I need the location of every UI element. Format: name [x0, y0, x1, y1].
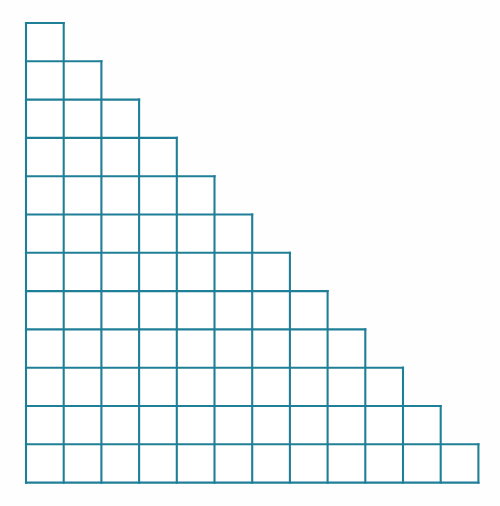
grid-cell — [328, 368, 366, 406]
grid-cell — [64, 100, 102, 138]
grid-cell — [290, 368, 328, 406]
grid-cell — [26, 406, 64, 444]
figure-canvas — [0, 0, 500, 506]
grid-cell — [403, 406, 441, 444]
grid-cell — [101, 291, 139, 329]
grid-cell — [139, 176, 177, 214]
grid-cell — [139, 329, 177, 367]
grid-cell — [365, 368, 403, 406]
grid-cell — [290, 329, 328, 367]
grid-cell — [101, 176, 139, 214]
grid-cell — [64, 215, 102, 253]
grid-cell — [26, 100, 64, 138]
grid-cell — [139, 138, 177, 176]
grid-cell — [139, 215, 177, 253]
staircase-diagram — [0, 0, 500, 506]
grid-cell — [139, 253, 177, 291]
grid-cell — [252, 444, 290, 482]
grid-cell — [64, 329, 102, 367]
grid-cell — [26, 176, 64, 214]
grid-cell — [64, 368, 102, 406]
grid-cell — [177, 176, 215, 214]
grid-cell — [177, 406, 215, 444]
grid-cell — [26, 444, 64, 482]
grid-cell — [328, 329, 366, 367]
grid-cell — [328, 406, 366, 444]
grid-cell — [26, 291, 64, 329]
grid-cell — [26, 61, 64, 99]
grid-cell — [403, 444, 441, 482]
grid-cell — [64, 61, 102, 99]
grid-cell — [101, 253, 139, 291]
grid-cell — [26, 23, 64, 61]
grid-cell — [215, 253, 253, 291]
grid-cell — [177, 368, 215, 406]
grid-cell — [177, 215, 215, 253]
grid-cell — [139, 406, 177, 444]
grid-cell — [365, 444, 403, 482]
grid-cell — [26, 215, 64, 253]
grid-cell — [26, 329, 64, 367]
grid-cell — [215, 368, 253, 406]
grid-cell — [215, 291, 253, 329]
grid-cell — [177, 444, 215, 482]
grid-cell — [177, 291, 215, 329]
grid-cell — [215, 444, 253, 482]
grid-cell — [139, 368, 177, 406]
grid-cell — [101, 100, 139, 138]
grid-cell — [290, 291, 328, 329]
grid-cell — [64, 253, 102, 291]
grid-cell — [101, 406, 139, 444]
grid-cell — [328, 444, 366, 482]
grid-cell — [252, 253, 290, 291]
grid-cell — [64, 444, 102, 482]
grid-cell — [64, 176, 102, 214]
grid-cell — [215, 329, 253, 367]
grid-cell — [101, 444, 139, 482]
grid-cell — [64, 138, 102, 176]
grid-cell — [139, 444, 177, 482]
grid-cell — [101, 329, 139, 367]
grid-cell — [290, 406, 328, 444]
grid-cell — [252, 368, 290, 406]
grid-cell — [101, 368, 139, 406]
grid-cell — [252, 329, 290, 367]
grid-cell — [441, 444, 479, 482]
grid-cell — [252, 406, 290, 444]
grid-cell — [26, 138, 64, 176]
grid-cell — [64, 406, 102, 444]
grid-cell — [101, 215, 139, 253]
grid-cell — [215, 215, 253, 253]
grid-cell — [26, 368, 64, 406]
grid-cell — [64, 291, 102, 329]
grid-cell — [215, 406, 253, 444]
grid-cell — [290, 444, 328, 482]
grid-cell — [177, 329, 215, 367]
grid-cell — [177, 253, 215, 291]
grid-cell — [139, 291, 177, 329]
grid-cell — [252, 291, 290, 329]
grid-cell — [26, 253, 64, 291]
grid-cell — [365, 406, 403, 444]
grid-cell — [101, 138, 139, 176]
